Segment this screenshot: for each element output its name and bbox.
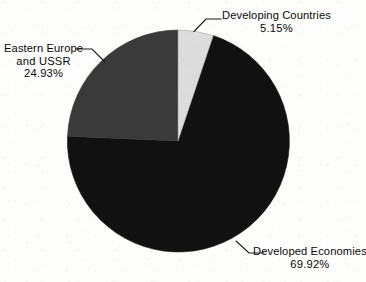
slice-label-developing-countries-name: Developing Countries — [222, 9, 331, 21]
leader-line-developing-countries — [194, 19, 221, 32]
pie-slice-eastern-europe-ussr[interactable] — [68, 30, 179, 141]
slice-label-eastern-europe-ussr: Eastern Europe and USSR 24.93% — [4, 42, 83, 80]
slice-label-eastern-europe-ussr-name-line1: Eastern Europe — [4, 42, 83, 54]
slice-label-eastern-europe-ussr-name-line2: and USSR — [4, 55, 83, 68]
slice-label-developing-countries-percent: 5.15% — [222, 22, 331, 35]
pie-chart-figure: Developing Countries 5.15% Eastern Europ… — [0, 0, 366, 282]
slice-label-developing-countries: Developing Countries 5.15% — [222, 9, 331, 34]
slice-label-developed-economies-percent: 69.92% — [253, 258, 366, 271]
slice-label-eastern-europe-ussr-percent: 24.93% — [4, 67, 83, 80]
slice-label-developed-economies: Developed Economies 69.92% — [253, 245, 366, 270]
slice-label-developed-economies-name: Developed Economies — [253, 245, 366, 257]
